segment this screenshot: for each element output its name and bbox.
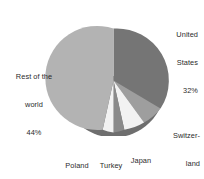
pie-label-japan: Japan 8% (126, 138, 156, 179)
pie-label-rest-of-world-line2: world (5, 100, 63, 109)
pie-label-turkey: Turkey 4% (95, 143, 127, 179)
pie-label-poland-line1: Poland (60, 161, 94, 170)
pie-label-united-states-value: 32% (176, 86, 198, 95)
pie-slices (45, 26, 169, 133)
pie-label-switzerland: Switzer- land 8% (173, 113, 200, 179)
pie-chart-screenshot: United States 32% Switzer- land 8% Japan… (0, 0, 204, 179)
pie-label-poland: Poland 4% (60, 143, 94, 179)
pie-label-united-states: United States 32% (176, 12, 198, 113)
pie-label-turkey-line1: Turkey (95, 161, 127, 170)
pie-label-united-states-line1: United (176, 30, 198, 39)
pie-label-rest-of-world-line1: Rest of the (5, 72, 63, 81)
pie-label-rest-of-world: Rest of the world 44% (5, 54, 63, 155)
pie-label-united-states-line2: States (176, 58, 198, 67)
pie-chart-figure: United States 32% Switzer- land 8% Japan… (0, 0, 204, 179)
pie-label-switzerland-line2: land (173, 159, 200, 168)
pie-label-switzerland-line1: Switzer- (173, 131, 200, 140)
pie-label-rest-of-world-value: 44% (5, 128, 63, 137)
pie-label-japan-line1: Japan (126, 156, 156, 165)
